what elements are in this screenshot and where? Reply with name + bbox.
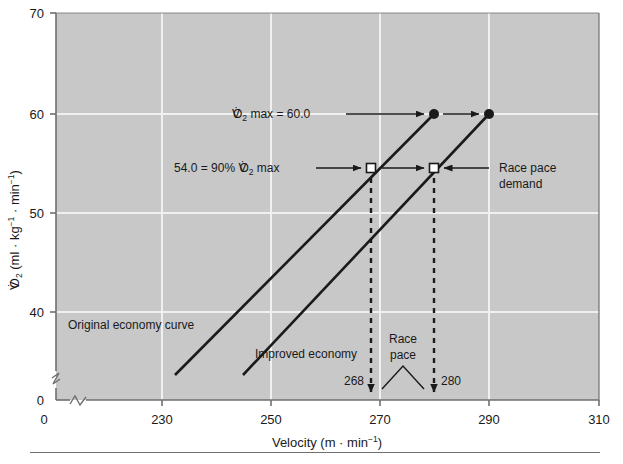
economy-curve-chart: 70 60 50 40 0 0 230 250 270 290 310 Velo… (0, 0, 623, 464)
annotation-ninety-percent-label: 54.0 = 90% V̇O2 max (174, 161, 280, 177)
dropline-label-268: 268 (344, 374, 364, 388)
y-tick-marks (50, 13, 56, 312)
annotation-race-pace-line1: Race (389, 332, 417, 346)
annotation-race-pace-line2: pace (390, 348, 416, 362)
x-axis-title: Velocity (m · min−1) (272, 434, 382, 450)
x-tick-label-290: 290 (478, 412, 500, 427)
y-tick-label-70: 70 (30, 6, 44, 21)
x-tick-label-270: 270 (369, 412, 391, 427)
x-tick-label-310: 310 (588, 412, 610, 427)
series-label-original-economy: Original economy curve (68, 318, 194, 332)
marker-ninety-original (367, 164, 376, 173)
y-tick-label-50: 50 (30, 206, 44, 221)
x-tick-marks (162, 400, 599, 406)
marker-vo2max-original (429, 109, 439, 119)
y-tick-label-40: 40 (30, 305, 44, 320)
marker-ninety-improved (430, 164, 439, 173)
x-tick-label-230: 230 (151, 412, 173, 427)
figure-container: 70 60 50 40 0 0 230 250 270 290 310 Velo… (0, 0, 623, 464)
y-tick-label-60: 60 (30, 107, 44, 122)
dropline-label-280: 280 (441, 374, 461, 388)
series-label-improved-economy: Improved economy (255, 347, 357, 361)
figure-bottom-rule (30, 452, 600, 453)
y-axis-title: V̇O2 (ml · kg−1 · min−1) (6, 170, 24, 290)
annotation-race-pace-demand-line1: Race pace (499, 161, 557, 175)
x-tick-label-250: 250 (260, 412, 282, 427)
marker-vo2max-improved (484, 109, 494, 119)
annotation-race-pace-demand-line2: demand (499, 177, 542, 191)
y-tick-label-0: 0 (37, 393, 44, 408)
plot-area-background (56, 13, 599, 400)
